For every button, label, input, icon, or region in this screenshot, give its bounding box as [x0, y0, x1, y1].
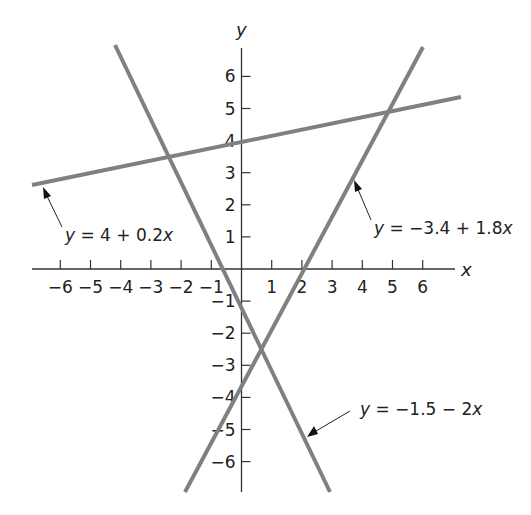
x-tick-label: −4 [108, 277, 133, 297]
x-ticks: −6−5−4−3−2−1123456 [48, 260, 428, 297]
x-tick-label: 5 [387, 277, 398, 297]
y-tick-label: −6 [210, 452, 235, 472]
x-tick-label: −5 [78, 277, 103, 297]
equation-label-1: y = 4 + 0.2x [64, 225, 174, 245]
x-tick-label: 4 [357, 277, 368, 297]
equation-label-2: y = −3.4 + 1.8x [373, 218, 513, 238]
x-tick-label: −2 [169, 277, 194, 297]
y-tick-label: −1 [210, 291, 235, 311]
y-axis-title: y [235, 19, 247, 40]
y-tick-label: −2 [210, 323, 235, 343]
x-tick-label: 3 [327, 277, 338, 297]
arrow-head-icon [307, 426, 318, 437]
x-tick-label: 6 [417, 277, 428, 297]
x-tick-label: −3 [138, 277, 163, 297]
y-tick-label: 4 [225, 131, 236, 151]
arrow-head-icon [354, 180, 362, 192]
axes: x y [32, 19, 472, 492]
x-axis-title: x [460, 259, 472, 280]
y-tick-label: −3 [210, 355, 235, 375]
x-tick-label: −6 [48, 277, 73, 297]
annotations: y = 4 + 0.2x y = −3.4 + 1.8x y = −1.5 − … [43, 180, 513, 437]
y-tick-label: 2 [225, 195, 236, 215]
equation-label-3: y = −1.5 − 2x [359, 399, 483, 419]
y-tick-label: 6 [225, 66, 236, 86]
y-tick-label: 1 [225, 227, 236, 247]
x-tick-label: 1 [266, 277, 277, 297]
arrow-head-icon [43, 187, 51, 199]
chart-canvas: x y −6−5−4−3−2−1123456 654321−1−2−3−4−5−… [0, 0, 531, 515]
y-tick-label: 5 [225, 99, 236, 119]
y-tick-label: 3 [225, 163, 236, 183]
series-line-1 [32, 97, 461, 185]
